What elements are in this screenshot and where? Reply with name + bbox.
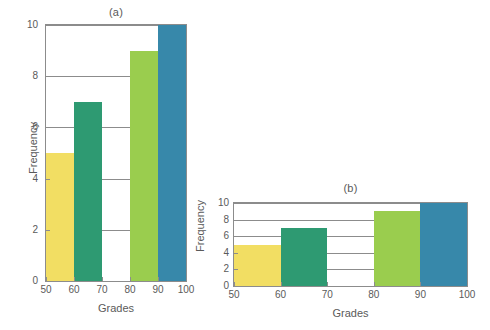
panel-b-title: (b) xyxy=(233,182,468,194)
x-tick-label: 70 xyxy=(87,285,117,295)
y-tick-mark xyxy=(234,236,238,237)
x-tick-label: 100 xyxy=(450,290,484,300)
y-tick-label: 2 xyxy=(193,264,229,274)
panel-a-bars xyxy=(46,25,186,281)
bar-50-60 xyxy=(46,153,74,281)
x-tick-mark xyxy=(234,282,235,286)
y-tick-label: 6 xyxy=(193,231,229,241)
x-tick-label: 60 xyxy=(264,290,298,300)
x-tick-mark xyxy=(327,282,328,286)
x-tick-mark xyxy=(420,282,421,286)
y-tick-mark xyxy=(234,269,238,270)
panel-b-bars xyxy=(234,203,467,286)
y-tick-label: 6 xyxy=(0,122,38,132)
x-tick-label: 50 xyxy=(217,290,251,300)
y-tick-mark xyxy=(234,203,238,204)
x-tick-label: 90 xyxy=(403,290,437,300)
bar-50-60 xyxy=(234,245,281,287)
y-tick-label: 10 xyxy=(0,20,38,30)
bar-60-70 xyxy=(74,102,102,281)
x-tick-mark xyxy=(186,277,187,281)
x-tick-label: 60 xyxy=(59,285,89,295)
panel-b-x-axis-title: Grades xyxy=(233,307,468,319)
x-tick-label: 90 xyxy=(143,285,173,295)
panel-a-title: (a) xyxy=(45,6,187,18)
panel-a-y-axis-title: Frequency xyxy=(27,19,39,277)
x-tick-label: 50 xyxy=(31,285,61,295)
y-tick-mark xyxy=(46,281,50,282)
y-tick-label: 8 xyxy=(193,215,229,225)
x-tick-mark xyxy=(102,277,103,281)
panel-a-plot-area xyxy=(45,24,187,282)
y-tick-label: 10 xyxy=(193,198,229,208)
chart-panel-b: (b) Frequency Grades 0246810 50607080901… xyxy=(205,178,490,330)
panel-a-x-axis-title: Grades xyxy=(45,302,187,314)
bar-90-100 xyxy=(158,25,186,281)
chart-panel-a: (a) Frequency Grades 0246810 50607080901… xyxy=(0,0,212,330)
x-tick-label: 80 xyxy=(115,285,145,295)
x-tick-mark xyxy=(74,277,75,281)
bar-80-90 xyxy=(130,51,158,281)
y-tick-label: 8 xyxy=(0,71,38,81)
y-tick-mark xyxy=(46,179,50,180)
x-tick-mark xyxy=(130,277,131,281)
x-tick-label: 70 xyxy=(310,290,344,300)
panel-b-plot-area xyxy=(233,202,468,287)
x-tick-label: 80 xyxy=(357,290,391,300)
y-tick-mark xyxy=(234,220,238,221)
y-tick-mark xyxy=(46,76,50,77)
x-tick-mark xyxy=(467,282,468,286)
y-tick-mark xyxy=(46,25,50,26)
y-tick-mark xyxy=(234,253,238,254)
bar-80-90 xyxy=(374,211,421,286)
y-tick-label: 4 xyxy=(193,248,229,258)
bar-60-70 xyxy=(281,228,328,286)
x-tick-mark xyxy=(46,277,47,281)
y-tick-mark xyxy=(234,286,238,287)
y-tick-mark xyxy=(46,127,50,128)
x-tick-mark xyxy=(374,282,375,286)
bar-90-100 xyxy=(420,203,467,286)
x-tick-mark xyxy=(158,277,159,281)
y-tick-label: 4 xyxy=(0,174,38,184)
x-tick-mark xyxy=(281,282,282,286)
y-tick-label: 2 xyxy=(0,225,38,235)
y-tick-mark xyxy=(46,230,50,231)
